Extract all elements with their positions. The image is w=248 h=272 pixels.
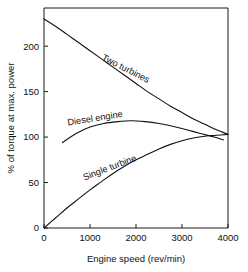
x-tick-label: 1000 [79, 232, 100, 243]
x-tick-label: 4000 [217, 232, 238, 243]
torque-vs-engine-speed-chart: 050100150200 01000200030004000 Two turbi… [0, 0, 248, 272]
y-tick-label: 200 [23, 41, 39, 52]
x-tick-label: 3000 [171, 232, 192, 243]
y-tick-label: 100 [23, 131, 39, 142]
y-tick-label: 0 [34, 222, 39, 233]
y-tick-label: 150 [23, 86, 39, 97]
x-tick-label: 2000 [125, 232, 146, 243]
y-tick-label: 50 [28, 177, 39, 188]
x-tick-label: 0 [41, 232, 46, 243]
x-axis-title: Engine speed (rev/min) [87, 253, 185, 264]
chart-figure: 050100150200 01000200030004000 Two turbi… [0, 0, 248, 272]
y-axis-title: % of torque at max. power [5, 63, 16, 174]
